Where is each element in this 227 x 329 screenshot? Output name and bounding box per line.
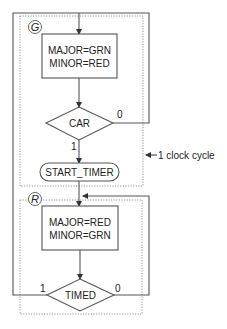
r-output-major: MAJOR=RED <box>49 217 111 228</box>
start-timer-label: START_TIMER <box>45 167 114 178</box>
g-output-minor: MINOR=RED <box>49 58 109 69</box>
svg-text:G: G <box>31 21 40 33</box>
g-output-major: MAJOR=GRN <box>48 45 111 56</box>
timed-false-label: 0 <box>115 283 121 294</box>
decision-car-label: CAR <box>69 118 90 129</box>
r-output-minor: MINOR=GRN <box>49 230 110 241</box>
car-true-label: 1 <box>71 141 77 152</box>
clock-cycle-annotation: 1 clock cycle <box>158 150 215 161</box>
car-false-label: 0 <box>117 109 123 120</box>
state-r-label: R <box>29 193 42 206</box>
state-g-label: G <box>29 21 42 34</box>
state-r-output-box <box>42 206 118 250</box>
svg-text:R: R <box>31 193 39 205</box>
state-g-output-box <box>42 34 117 78</box>
decision-timed-label: TIMED <box>65 290 96 301</box>
timed-true-label: 1 <box>40 283 46 294</box>
asm-chart: G MAJOR=GRN MINOR=RED CAR 0 1 START_TIME… <box>0 0 227 329</box>
